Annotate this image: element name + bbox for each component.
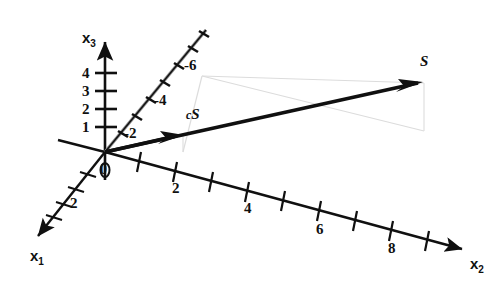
construction-lines [183, 76, 424, 152]
axis-x2 [105, 152, 462, 251]
construction-line-upper [202, 76, 424, 83]
tick-label-negx2-2: -2 [124, 126, 137, 141]
tick-label-x2-2: 2 [172, 181, 180, 196]
vector-label-S: S [420, 54, 428, 69]
origin-label: 0 [100, 163, 107, 177]
axis-x2-ticks [137, 152, 429, 251]
axis-x2-negative-stub [58, 140, 105, 152]
tick-label-x3-3: 3 [82, 84, 90, 99]
tick-label-x3-1: 1 [82, 120, 90, 135]
tick-label-negx2-4: -4 [154, 93, 167, 108]
tick-label-x3-4: 4 [82, 66, 90, 81]
tick-label-negx2-6: -6 [184, 58, 197, 73]
tick-label-x3-2: 2 [82, 102, 90, 117]
vector-cS-arrow [105, 131, 184, 152]
vector-label-cS: cS [186, 107, 200, 122]
diagram-canvas [0, 0, 504, 294]
axis-label-x1: x1 [30, 248, 44, 267]
tick-label-x2-8: 8 [388, 241, 396, 256]
axis-x1-line [38, 152, 105, 236]
axis-x1 [38, 152, 105, 236]
vector-diagram-figure: x3 x1 x2 4 3 2 1 -2 -4 -6 2 4 6 8 2 0 S … [0, 0, 504, 294]
tick-label-x1-2: 2 [70, 196, 78, 211]
tick-label-x2-4: 4 [244, 201, 252, 216]
axis-label-x2: x2 [470, 256, 484, 275]
tick-label-x2-6: 6 [316, 222, 324, 237]
axis-label-x3: x3 [82, 30, 96, 49]
